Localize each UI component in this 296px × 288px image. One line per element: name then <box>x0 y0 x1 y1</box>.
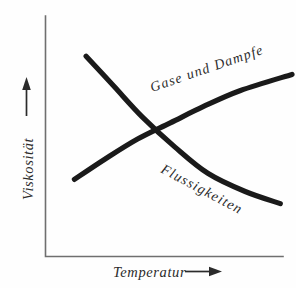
curve-gases-und-dampfe <box>74 74 292 179</box>
figure-canvas: Gase und Dampfe Flussigkeiten Viskosität… <box>0 0 296 288</box>
x-axis-arrow <box>185 267 222 276</box>
x-axis-label: Temperatur <box>113 264 186 280</box>
y-axis-label: Viskosität <box>20 138 36 200</box>
y-axis-arrow <box>22 77 31 116</box>
